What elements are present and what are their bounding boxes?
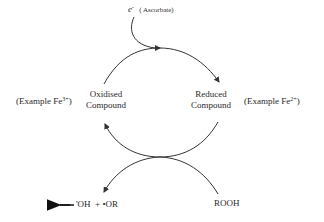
right-example-label: (Example Fe2+) bbox=[244, 96, 300, 107]
oxidised-compound-label: Oxidised Compound bbox=[80, 89, 132, 111]
cycle-diagram bbox=[0, 0, 324, 222]
reduction-arc bbox=[104, 48, 219, 84]
rooh-label: ROOH bbox=[214, 198, 240, 209]
electron-donor-label: e- ( Ascorbate) bbox=[128, 4, 174, 16]
reduced-compound-label: Reduced Compound bbox=[186, 89, 236, 111]
products-label: 'OH + •OR bbox=[76, 199, 118, 210]
oxidation-arc bbox=[105, 122, 218, 157]
electron-input-arrow bbox=[132, 17, 160, 48]
left-example-label: (Example Fe3+) bbox=[16, 96, 72, 107]
rooh-arc bbox=[104, 157, 218, 194]
ascorbate-label: ( Ascorbate) bbox=[139, 6, 173, 14]
